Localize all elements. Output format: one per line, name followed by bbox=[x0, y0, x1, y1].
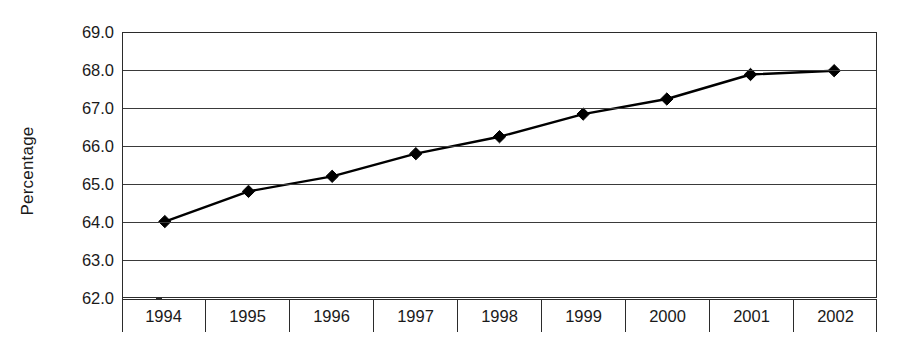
x-axis-tick-label: 2002 bbox=[794, 300, 877, 332]
y-axis-tick-label: 67.0 bbox=[40, 100, 114, 117]
data-point-marker bbox=[242, 185, 254, 197]
x-axis-tick-label: 2000 bbox=[626, 300, 710, 332]
y-axis-title-label: Percentage bbox=[18, 126, 38, 215]
gridline bbox=[123, 222, 876, 223]
line-chart: Percentage 69.068.067.066.065.064.063.06… bbox=[0, 0, 904, 341]
y-axis-tick-label: 65.0 bbox=[40, 176, 114, 193]
gridline bbox=[123, 146, 876, 147]
y-axis-tick-label: 68.0 bbox=[40, 62, 114, 79]
y-axis-tick-label: 63.0 bbox=[40, 252, 114, 269]
x-axis-tick-labels: 199419951996199719981999200020012002 bbox=[122, 299, 877, 332]
x-axis-tick-label: 1995 bbox=[206, 300, 290, 332]
y-axis-tick-labels: 69.068.067.066.065.064.063.062.0 bbox=[40, 32, 114, 298]
gridline bbox=[123, 260, 876, 261]
x-axis-tick-label: 2001 bbox=[710, 300, 794, 332]
series-percentage bbox=[123, 33, 876, 297]
gridline bbox=[123, 108, 876, 109]
y-axis-tick-label: 69.0 bbox=[40, 24, 114, 41]
x-axis-tick-label: 1994 bbox=[122, 300, 206, 332]
y-axis-tick-label: 62.0 bbox=[40, 290, 114, 307]
x-axis-tick-label: 1998 bbox=[458, 300, 542, 332]
data-point-marker bbox=[410, 148, 422, 160]
data-point-marker bbox=[326, 170, 338, 182]
gridline bbox=[123, 70, 876, 71]
x-axis-tick-label: 1999 bbox=[542, 300, 626, 332]
x-axis-tick-label: 1996 bbox=[290, 300, 374, 332]
data-point-marker bbox=[493, 131, 505, 143]
data-point-marker bbox=[661, 93, 673, 105]
plot-area bbox=[122, 32, 877, 298]
data-point-marker bbox=[577, 108, 589, 120]
y-axis-tick-label: 66.0 bbox=[40, 138, 114, 155]
gridline bbox=[123, 184, 876, 185]
y-axis-tick-label: 64.0 bbox=[40, 214, 114, 231]
x-axis-left-tick bbox=[122, 284, 123, 300]
x-axis-tick-label: 1997 bbox=[374, 300, 458, 332]
